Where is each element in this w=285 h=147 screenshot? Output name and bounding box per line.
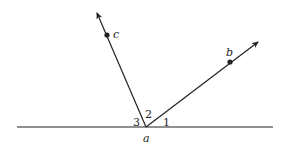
angle-label-2: 2 <box>145 108 152 121</box>
label-c: c <box>113 28 119 41</box>
point-b <box>227 59 232 64</box>
ray-ab <box>146 42 258 127</box>
angle-label-3: 3 <box>133 116 140 129</box>
ray-ac <box>97 13 146 127</box>
angle-label-1: 1 <box>163 116 170 129</box>
label-a: a <box>143 132 150 145</box>
label-b: b <box>226 46 233 59</box>
angle-diagram: c b a 3 2 1 <box>0 0 285 147</box>
point-c <box>104 32 109 37</box>
